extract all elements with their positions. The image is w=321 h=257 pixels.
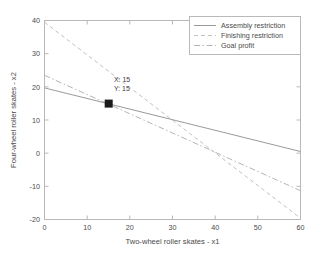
x-tick-label-6: 60 xyxy=(297,223,305,232)
series-line-assembly-restriction xyxy=(45,88,301,152)
legend-label-finishing-restriction: Finishing restriction xyxy=(221,31,283,40)
x-tick-label-2: 20 xyxy=(126,223,134,232)
datatip-y-value: Y: 15 xyxy=(114,85,130,92)
y-axis-title: Four-wheel roller skates - x2 xyxy=(9,72,18,168)
chart-canvas: 0 10 20 30 40 50 60 40 30 20 10 0 -10 -2… xyxy=(0,0,321,257)
legend-label-goal-profit: Goal profit xyxy=(221,41,254,50)
y-tick-label-0: 40 xyxy=(32,16,40,25)
x-tick-label-5: 50 xyxy=(254,223,262,232)
legend-label-assembly-restriction: Assembly restriction xyxy=(221,21,285,30)
x-axis-title: Two-wheel roller skates - x1 xyxy=(125,237,219,246)
y-tick-label-5: -10 xyxy=(30,182,40,191)
datatip-x-value: X: 15 xyxy=(114,76,130,83)
y-tick-label-4: 0 xyxy=(36,149,40,158)
series-line-goal-profit xyxy=(45,75,301,190)
x-tick-label-0: 0 xyxy=(43,223,47,232)
y-tick-label-1: 30 xyxy=(32,49,40,58)
y-tick-label-6: -20 xyxy=(30,215,40,224)
figure-container: 0 10 20 30 40 50 60 40 30 20 10 0 -10 -2… xyxy=(0,0,321,257)
x-tick-label-4: 40 xyxy=(211,223,219,232)
y-tick-label-2: 20 xyxy=(32,83,40,92)
x-tick-label-3: 30 xyxy=(169,223,177,232)
optimum-point-marker[interactable] xyxy=(105,100,113,108)
x-tick-label-1: 10 xyxy=(83,223,91,232)
y-tick-label-3: 10 xyxy=(32,116,40,125)
